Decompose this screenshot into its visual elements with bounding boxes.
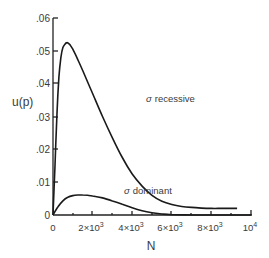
x-tick-label: 8×103 [197, 221, 222, 233]
x-tick-labels: 0 2×103 4×103 6×103 8×103 104 [50, 221, 257, 233]
chart: .06 .05 .04 .03 .02 .01 0 u(p) 0 2×103 4… [0, 0, 269, 258]
label-dominant: σdominant [124, 185, 172, 196]
x-tick-label: 0 [50, 222, 55, 233]
y-tick-label: .01 [36, 177, 50, 188]
y-tick-label: 0 [44, 210, 50, 221]
curve-dominant [53, 195, 251, 215]
x-tick-label: 2×103 [78, 221, 103, 233]
x-tick-label: 6×103 [157, 221, 182, 233]
y-tick-label: .06 [36, 13, 50, 24]
x-tick-label: 4×103 [118, 221, 143, 233]
y-tick-labels: .06 .05 .04 .03 .02 .01 0 [36, 13, 50, 221]
x-axis-label: N [147, 239, 156, 253]
y-tick-label: .04 [36, 78, 50, 89]
label-recessive: σrecessive [146, 93, 195, 104]
y-tick-label: .03 [36, 112, 50, 123]
y-tick-label: .02 [36, 144, 50, 155]
y-tick-label: .05 [36, 46, 50, 57]
x-tick-label: 104 [243, 221, 258, 233]
y-axis-label: u(p) [12, 95, 33, 109]
